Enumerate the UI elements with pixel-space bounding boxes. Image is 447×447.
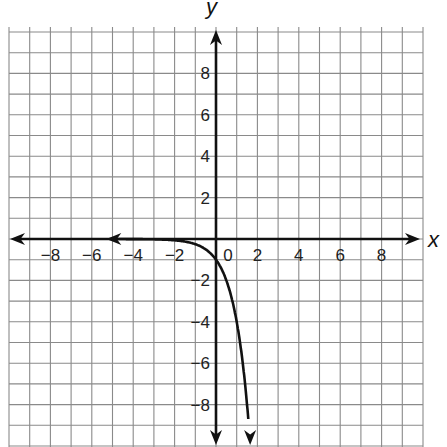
x-tick-label: −8 bbox=[41, 246, 60, 265]
x-tick-label: −4 bbox=[124, 246, 143, 265]
x-tick-label: −2 bbox=[165, 246, 184, 265]
y-tick-label: 8 bbox=[201, 64, 210, 83]
x-tick-label: 0 bbox=[223, 246, 232, 265]
x-tick-label: −6 bbox=[82, 246, 101, 265]
y-tick-label: −8 bbox=[191, 396, 210, 415]
y-tick-label: 6 bbox=[201, 106, 210, 125]
y-axis-label: y bbox=[204, 0, 219, 19]
x-tick-label: 8 bbox=[377, 246, 386, 265]
x-tick-label: 6 bbox=[335, 246, 344, 265]
x-tick-label: 4 bbox=[294, 246, 303, 265]
y-tick-label: 2 bbox=[201, 189, 210, 208]
y-tick-label: −2 bbox=[191, 271, 210, 290]
y-tick-label: −4 bbox=[191, 313, 210, 332]
x-tick-label: 2 bbox=[253, 246, 262, 265]
coordinate-plane: −8−6−4−2024688642−2−4−6−8 x y bbox=[0, 0, 447, 447]
x-axis-label: x bbox=[427, 227, 440, 252]
y-tick-label: 4 bbox=[201, 147, 210, 166]
y-tick-label: −6 bbox=[191, 354, 210, 373]
